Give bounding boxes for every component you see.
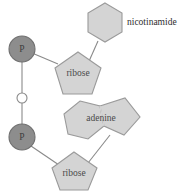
- bond-ribose-top-phosphate-top: [32, 53, 58, 64]
- node-ribose-top: ribose: [55, 52, 101, 94]
- node-ribose-bottom: ribose: [52, 152, 97, 190]
- node-nicotinamide: [88, 3, 122, 42]
- nicotinamide-label: nicotinamide: [127, 17, 177, 27]
- oxygen-bridge-circle: [17, 93, 27, 103]
- bond-ribose-bottom-adenine: [88, 135, 110, 163]
- bond-group: [22, 41, 110, 165]
- nad-structure-diagram: ribose P P adenine ribose: [0, 0, 180, 192]
- phosphate-top-label: P: [19, 44, 24, 54]
- phosphate-bottom-label: P: [19, 132, 24, 142]
- node-phosphate-bottom: P: [9, 124, 35, 150]
- node-adenine: adenine: [64, 98, 140, 139]
- adenine-label: adenine: [86, 113, 116, 123]
- node-oxygen-bridge: [17, 93, 27, 103]
- molecule-canvas: ribose P P adenine ribose: [0, 0, 180, 192]
- ribose-top-label: ribose: [66, 68, 89, 78]
- bond-phosphate-bottom-ribose-bottom: [31, 146, 59, 165]
- nicotinamide-hexagon: [88, 3, 122, 42]
- ribose-bottom-label: ribose: [62, 168, 85, 178]
- node-phosphate-top: P: [9, 36, 35, 62]
